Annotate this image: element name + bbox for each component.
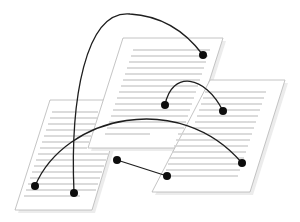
link-4 <box>117 160 167 176</box>
dot-icon <box>113 156 121 164</box>
linked-documents-diagram <box>0 0 300 222</box>
dot-icon <box>70 189 78 197</box>
dot-icon <box>163 172 171 180</box>
dot-icon <box>31 182 39 190</box>
dot-icon <box>238 159 246 167</box>
dot-icon <box>161 101 169 109</box>
dot-icon <box>219 107 227 115</box>
dot-icon <box>199 51 207 59</box>
